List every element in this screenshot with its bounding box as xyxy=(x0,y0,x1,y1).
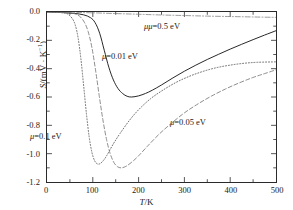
x-axis-title: T/K xyxy=(0,197,293,207)
annotation-label: =0.05 eV xyxy=(174,117,206,127)
annotation-label: =0.01 eV xyxy=(106,51,138,61)
axis-ticks xyxy=(47,12,276,182)
series-annotation-mu-0-5: μμ=0.5 eVμ=0.5 eV xyxy=(144,22,180,31)
x-tick-label: 200 xyxy=(118,186,158,195)
plot-svg xyxy=(47,12,276,182)
x-tick-label: 500 xyxy=(257,186,293,195)
series-annotation-mu-0-05: μ=0.05 eV xyxy=(170,118,206,127)
x-tick-label: 0 xyxy=(26,186,66,195)
annotation-label: =0.5 eV xyxy=(153,21,180,31)
y-axis-title-exponent: −1 xyxy=(36,44,43,51)
y-tick-label: -1.0 xyxy=(0,150,40,159)
series-annotation-mu-0-1: μ=0.1 eV xyxy=(30,132,62,141)
figure: 0.0 -0.2 -0.4 -0.6 -0.8 -1.0 -1.2 0 100 … xyxy=(0,0,293,210)
x-axis-title-unit: /K xyxy=(145,197,154,207)
y-tick-label: 0.0 xyxy=(0,7,40,16)
plot-area: μμ=0.5 eVμ=0.5 eV μ=0.01 eV μ=0.05 eV μ=… xyxy=(46,11,277,183)
series-curve-1 xyxy=(47,12,276,164)
annotation-label: =0.1 eV xyxy=(34,131,61,141)
x-tick-label: 300 xyxy=(165,186,205,195)
data-curves xyxy=(47,12,276,168)
y-tick-label: -0.8 xyxy=(0,121,40,130)
series-curve-2 xyxy=(47,12,276,168)
x-tick-label: 100 xyxy=(72,186,112,195)
series-annotation-mu-0-01: μ=0.01 eV xyxy=(102,52,138,61)
x-tick-label: 400 xyxy=(211,186,251,195)
